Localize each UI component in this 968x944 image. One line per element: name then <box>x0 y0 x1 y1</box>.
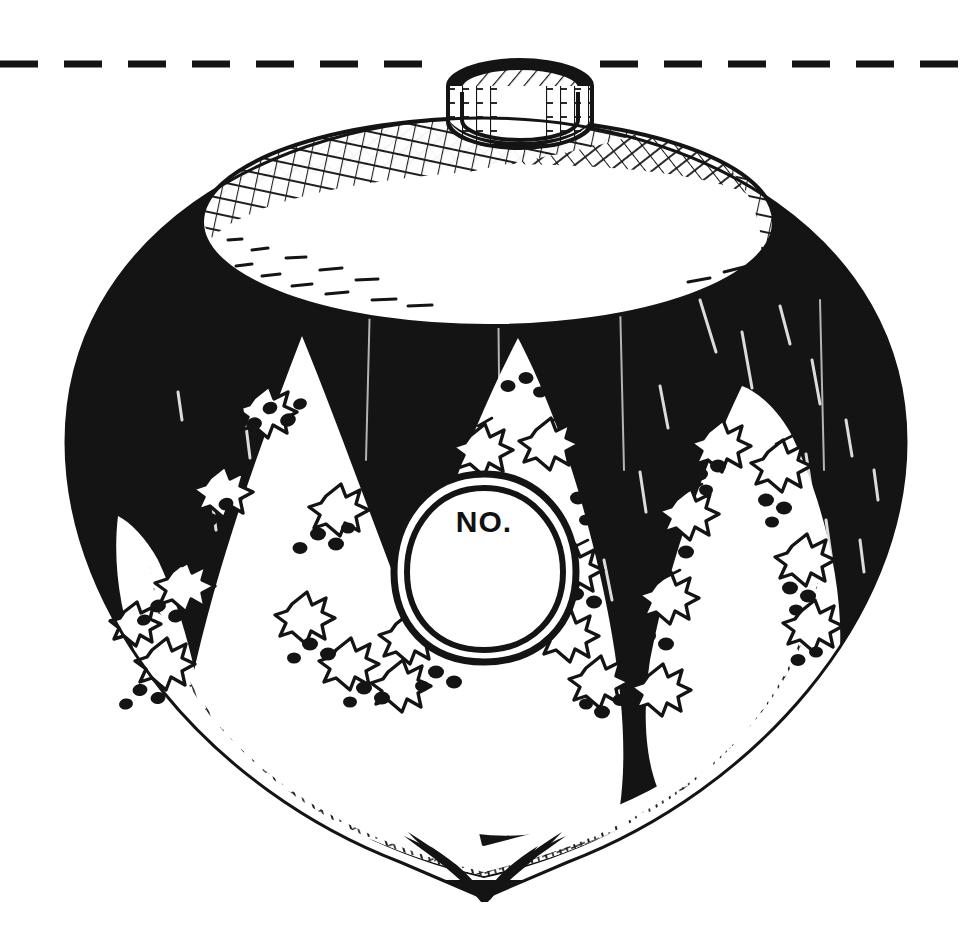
number-medallion[interactable]: NO. <box>394 474 576 662</box>
ornament-illustration: NO. <box>0 0 968 944</box>
ornament-cap <box>446 58 594 150</box>
medallion-label: NO. <box>456 505 512 538</box>
illustration-canvas: NO. <box>0 0 968 944</box>
